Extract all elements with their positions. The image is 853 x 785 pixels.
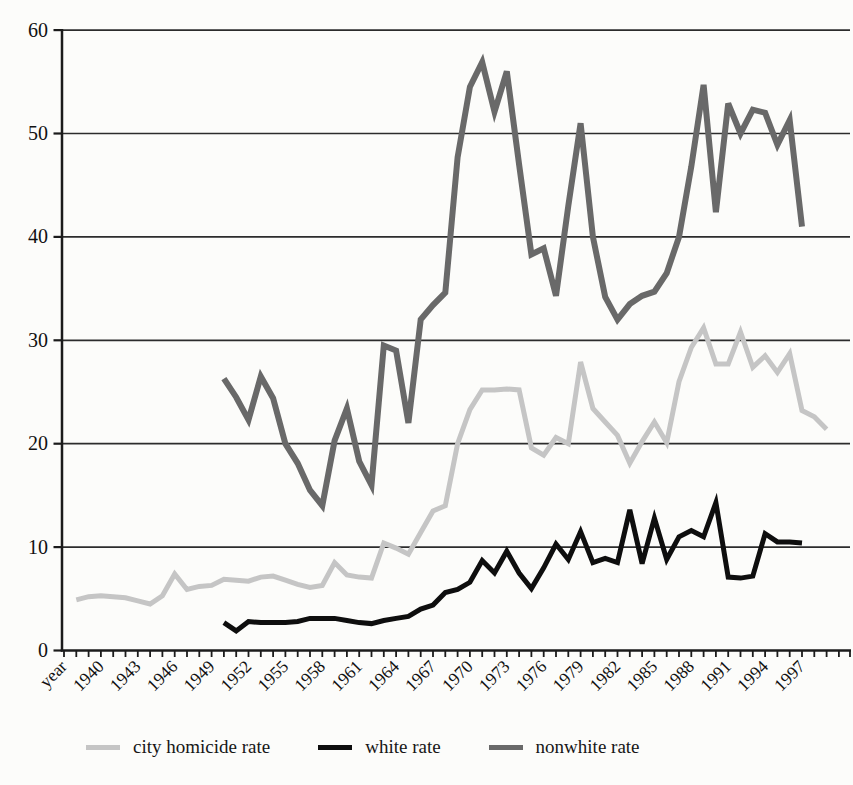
x-tick-label-1994: 1994 [733,656,772,695]
legend-swatch-nonwhite-rate [489,745,523,750]
x-tick-label-1940: 1940 [69,656,108,695]
y-tick-label-10: 10 [28,536,48,558]
series-line-nonwhite-rate [224,62,802,506]
x-tick-label-1985: 1985 [622,656,661,695]
x-tick-label-1958: 1958 [290,656,329,695]
x-tick-label-1979: 1979 [549,656,588,695]
y-tick-label-50: 50 [28,122,48,144]
x-tick-label-1955: 1955 [253,656,292,695]
x-tick-label-1970: 1970 [438,656,477,695]
x-tick-label-1997: 1997 [770,656,809,695]
homicide-rate-figure: 0102030405060year19401943194619491952195… [0,0,853,785]
x-tick-label-1976: 1976 [512,656,551,695]
y-tick-label-0: 0 [38,639,48,661]
x-tick-label-1988: 1988 [659,656,698,695]
legend-swatch-white-rate [318,745,352,750]
x-tick-label-1946: 1946 [143,656,182,695]
x-tick-label-1943: 1943 [106,656,145,695]
legend-item-city-homicide-rate: city homicide rate [86,736,270,758]
y-tick-label-40: 40 [28,225,48,247]
x-tick-label-year: year [35,656,71,692]
x-tick-label-1949: 1949 [180,656,219,695]
legend-item-nonwhite-rate: nonwhite rate [489,736,640,758]
x-tick-label-1967: 1967 [401,656,440,695]
legend-swatch-city-homicide-rate [86,745,120,750]
x-tick-label-1982: 1982 [585,656,624,695]
x-tick-label-1961: 1961 [327,656,366,695]
y-tick-label-30: 30 [28,329,48,351]
legend-label-white-rate: white rate [365,736,440,758]
x-tick-label-1991: 1991 [696,656,735,695]
y-tick-label-60: 60 [28,19,48,41]
series-line-white-rate [224,503,802,631]
x-tick-label-1964: 1964 [364,656,403,695]
chart-legend: city homicide rate white rate nonwhite r… [0,736,853,758]
series-line-city-homicide-rate [76,328,826,604]
chart-canvas: 0102030405060year19401943194619491952195… [0,0,853,722]
legend-label-nonwhite-rate: nonwhite rate [536,736,640,758]
x-tick-label-1952: 1952 [216,656,255,695]
x-tick-label-1973: 1973 [475,656,514,695]
legend-item-white-rate: white rate [318,736,440,758]
legend-label-city-homicide-rate: city homicide rate [133,736,270,758]
y-tick-label-20: 20 [28,432,48,454]
